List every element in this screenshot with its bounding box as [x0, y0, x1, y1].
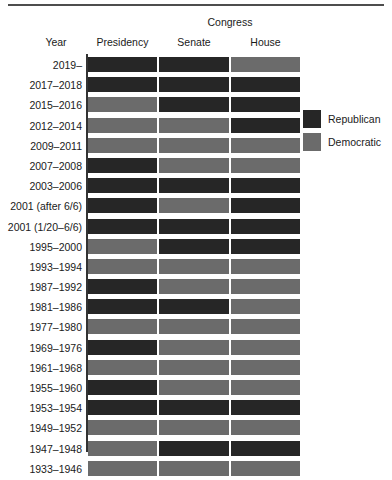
row-year-label: 1933–1946	[0, 463, 82, 476]
row-year-label: 2001 (after 6/6)	[0, 200, 82, 213]
party-cell	[88, 57, 157, 72]
party-cell	[159, 400, 229, 415]
party-cell	[159, 380, 229, 395]
party-cell	[159, 279, 229, 294]
party-cell	[88, 319, 157, 334]
party-cell	[159, 441, 229, 456]
party-cell	[231, 360, 300, 375]
table-row: 1933–1946	[0, 460, 392, 480]
party-cell	[88, 118, 157, 133]
row-year-label: 2012–2014	[0, 120, 82, 133]
party-cell	[159, 57, 229, 72]
table-row: 1981–1986	[0, 298, 392, 318]
table-row: 1953–1954	[0, 399, 392, 419]
row-year-label: 2017–2018	[0, 79, 82, 92]
table-row: 2019–	[0, 56, 392, 76]
party-cell	[88, 340, 157, 355]
party-cell	[231, 461, 300, 476]
row-year-label: 1981–1986	[0, 301, 82, 314]
party-cell	[88, 219, 157, 234]
table-row: 1993–1994	[0, 258, 392, 278]
party-cell	[159, 178, 229, 193]
row-year-label: 2019–	[0, 59, 82, 72]
row-year-label: 1947–1948	[0, 443, 82, 456]
party-cell	[231, 380, 300, 395]
party-cell	[231, 198, 300, 213]
column-header-house: House	[231, 36, 300, 48]
party-cell	[88, 360, 157, 375]
party-cell	[231, 319, 300, 334]
party-cell	[159, 299, 229, 314]
party-cell	[159, 118, 229, 133]
party-cell	[231, 178, 300, 193]
party-cell	[159, 198, 229, 213]
row-year-label: 1995–2000	[0, 241, 82, 254]
party-cell	[88, 97, 157, 112]
legend-label: Democratic	[328, 136, 381, 149]
party-cell	[159, 97, 229, 112]
party-cell	[88, 178, 157, 193]
table-row: 2001 (1/20–6/6)	[0, 218, 392, 238]
table-row: 1995–2000	[0, 238, 392, 258]
table-row: 1987–1992	[0, 278, 392, 298]
row-year-label: 2015–2016	[0, 99, 82, 112]
row-year-label: 1961–1968	[0, 362, 82, 375]
legend-item: Republican	[303, 110, 389, 133]
legend-swatch-icon	[303, 110, 321, 128]
party-cell	[159, 239, 229, 254]
party-cell	[159, 259, 229, 274]
party-cell	[159, 158, 229, 173]
party-cell	[159, 461, 229, 476]
row-year-label: 2001 (1/20–6/6)	[0, 221, 82, 234]
party-cell	[231, 219, 300, 234]
party-cell	[231, 158, 300, 173]
table-row: 1949–1952	[0, 419, 392, 439]
party-cell	[159, 77, 229, 92]
party-cell	[88, 158, 157, 173]
column-header-presidency: Presidency	[88, 36, 157, 48]
party-cell	[159, 319, 229, 334]
row-year-label: 2003–2006	[0, 180, 82, 193]
party-cell	[159, 138, 229, 153]
party-cell	[159, 420, 229, 435]
table-row: 2003–2006	[0, 177, 392, 197]
party-cell	[231, 77, 300, 92]
party-cell	[231, 400, 300, 415]
table-row: 1961–1968	[0, 359, 392, 379]
party-cell	[231, 299, 300, 314]
party-cell	[88, 239, 157, 254]
party-cell	[231, 97, 300, 112]
top-rule	[8, 4, 384, 6]
legend-label: Republican	[328, 113, 381, 126]
party-cell	[231, 57, 300, 72]
table-row: 1947–1948	[0, 440, 392, 460]
party-cell	[231, 118, 300, 133]
party-cell	[88, 299, 157, 314]
party-cell	[159, 219, 229, 234]
table-row: 1969–1976	[0, 339, 392, 359]
party-cell	[231, 239, 300, 254]
party-cell	[231, 259, 300, 274]
party-cell	[88, 138, 157, 153]
party-cell	[159, 360, 229, 375]
row-year-label: 2009–2011	[0, 140, 82, 153]
table-row: 1955–1960	[0, 379, 392, 399]
year-column-header: Year	[26, 36, 86, 48]
party-cell	[88, 380, 157, 395]
column-header-senate: Senate	[159, 36, 229, 48]
row-year-label: 1987–1992	[0, 281, 82, 294]
party-cell	[231, 138, 300, 153]
party-cell	[88, 198, 157, 213]
row-year-label: 1993–1994	[0, 261, 82, 274]
party-cell	[159, 340, 229, 355]
legend: RepublicanDemocratic	[303, 110, 389, 156]
row-year-label: 2007–2008	[0, 160, 82, 173]
party-cell	[231, 279, 300, 294]
table-row: 1977–1980	[0, 318, 392, 338]
party-cell	[88, 400, 157, 415]
party-cell	[231, 340, 300, 355]
party-cell	[88, 77, 157, 92]
party-cell	[231, 441, 300, 456]
row-year-label: 1977–1980	[0, 321, 82, 334]
